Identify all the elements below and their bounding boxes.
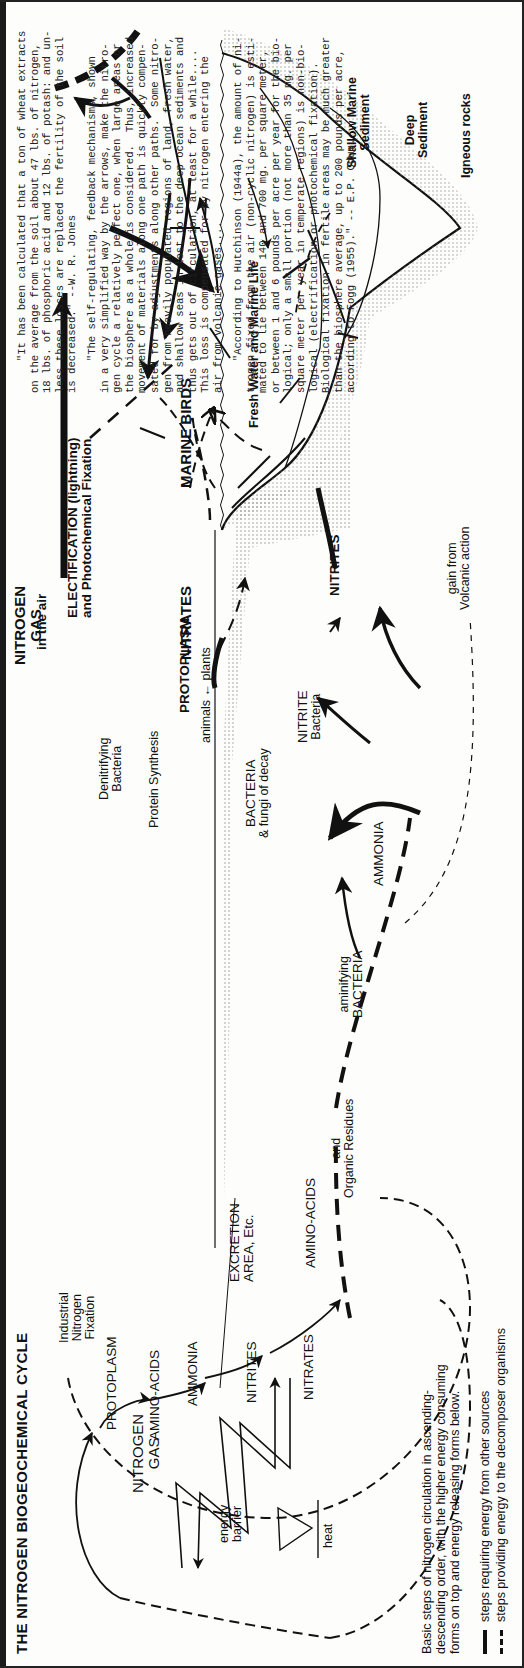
label-protoplasm-land: PROTOPLASM (178, 618, 192, 713)
label-industrial-fixation: Industrial Nitrogen Fixation (58, 1292, 97, 1343)
label-heat: heat (322, 1524, 335, 1548)
page-title: THE NITROGEN BIOGEOCHEMICAL CYCLE (14, 1333, 30, 1654)
label-animals-plants: animals ← plants (200, 647, 213, 743)
label-step-nitrates: NITRATES (302, 1334, 316, 1400)
label-step-nitrites: NITRITES (245, 1341, 259, 1403)
label-protein-synthesis: Protein Synthesis (148, 731, 161, 828)
legend-item-solid: steps requiring energy from other source… (478, 1391, 492, 1654)
label-nitrites-land: NITRITES (328, 534, 342, 596)
label-electrification: ELECTIFICATION (lightning) and Photochem… (66, 438, 94, 618)
label-step-amino-acids: AMINO-ACIDS (148, 1350, 162, 1440)
diagram-page: THE NITROGEN BIOGEOCHEMICAL CYCLE NITROG… (0, 0, 524, 1668)
label-excretion-area: EXCRETION AREA, Etc. (228, 1203, 256, 1282)
label-deep-sediment: Deep Sediment (404, 102, 430, 158)
label-marine-birds: MARINE BIRDS (178, 378, 194, 488)
label-denitrifying-bacteria: Denitrifying Bacteria (98, 737, 124, 800)
label-organic-residues: and Organic Residues (330, 1099, 356, 1198)
label-volcanic-action: gain from Volcanic action (446, 527, 472, 610)
label-bacteria-decay: BACTERIA & fungi of decay (244, 748, 271, 838)
quote-jones: "It has been calculated that a ton of wh… (16, 31, 79, 393)
arrow-volcanic-to-ammonia (380, 608, 420, 688)
label-step-protoplasm: PROTOPLASM (105, 1336, 119, 1430)
quote-self-regulating: "The self-regulating, feedback mechanism… (86, 37, 225, 393)
legend-item-dashed: steps providing energy to the decomposer… (494, 1328, 508, 1654)
quote-hutchinson-odum: "According to Hutchinson (1944a), the am… (232, 37, 358, 393)
label-nitrite-bacteria: NITRITE Bacteria (296, 691, 323, 744)
heat-triangle (278, 1508, 312, 1550)
label-step-ammonia: AMMONIA (186, 1341, 200, 1406)
energy-barrier-zigzag (176, 1378, 318, 1568)
label-energy-barrier: energy barrier (218, 1505, 244, 1543)
legend-solid-line-icon (483, 1630, 487, 1654)
arrow-ammonia-to-nitrite-bacteria (318, 698, 370, 743)
figure-caption: Basic steps of nitrogen circulation in a… (420, 1364, 462, 1654)
label-in-the-air: in the air (35, 594, 49, 650)
legend-dashed-line-icon (500, 1630, 503, 1654)
label-igneous-rocks: Igneous rocks (460, 93, 473, 178)
label-aminifying-bacteria: aminifying BACTERIA (338, 950, 365, 1018)
label-amino-acids-land: AMINO-ACIDS (304, 1178, 318, 1268)
arrow-amino-to-aminifying (342, 878, 360, 958)
label-ammonia-land: AMMONIA (372, 821, 386, 886)
